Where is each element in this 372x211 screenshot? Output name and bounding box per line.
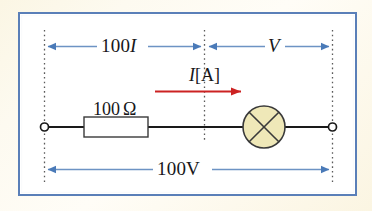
label-total-dimension: 100V (157, 159, 200, 178)
label-resistor-unit: Ω (123, 99, 136, 119)
circuit-canvas (0, 0, 372, 211)
label-right-dimension: V (268, 36, 280, 55)
lamp-symbol (243, 106, 285, 148)
label-left-dimension: 100I (101, 36, 137, 55)
figure-root: 100I V I[A] 100Ω 100V (0, 0, 372, 211)
label-current: I[A] (189, 66, 220, 84)
label-left-dimension-symbol: I (130, 35, 137, 56)
label-current-unit: [A] (195, 65, 220, 85)
terminal-node-left (41, 123, 49, 131)
label-resistor: 100Ω (93, 100, 136, 118)
label-total-dimension-value: 100 (157, 158, 186, 179)
label-left-dimension-value: 100 (101, 35, 130, 56)
label-total-dimension-unit: V (186, 158, 200, 179)
label-resistor-value: 100 (93, 99, 120, 119)
terminal-node-right (329, 123, 337, 131)
resistor-symbol (84, 117, 148, 137)
